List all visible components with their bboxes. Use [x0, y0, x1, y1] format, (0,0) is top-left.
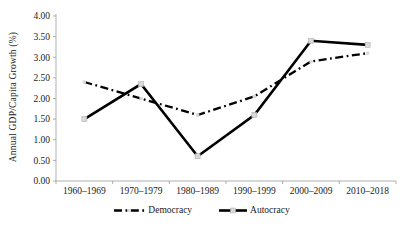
plot-area: 0.000.501.001.502.002.503.003.504.001960… [0, 0, 403, 236]
autocracy-marker [252, 113, 257, 118]
democracy-marker [366, 52, 369, 55]
x-tick-label: 2010–2018 [346, 186, 389, 196]
autocracy-marker [309, 38, 314, 43]
democracy-marker [83, 80, 86, 83]
x-tick-label: 1970–1979 [120, 186, 163, 196]
gdp-growth-line-chart: 0.000.501.001.502.002.503.003.504.001960… [0, 0, 403, 236]
x-tick-label: 2000–2009 [290, 186, 333, 196]
legend-label-autocracy: Autocracy [250, 205, 290, 215]
y-tick-label: 1.00 [33, 135, 50, 145]
legend-item-democracy: Democracy [113, 205, 192, 215]
autocracy-solid-line-icon [218, 206, 248, 215]
democracy-marker [309, 60, 312, 63]
democracy-dashed-line-icon [113, 206, 146, 215]
democracy-line [84, 53, 367, 115]
legend-item-autocracy: Autocracy [218, 205, 290, 215]
y-tick-label: 4.00 [33, 11, 50, 21]
y-tick-label: 0.00 [33, 176, 50, 186]
democracy-marker [253, 95, 256, 98]
legend-label-democracy: Democracy [148, 205, 192, 215]
x-tick-label: 1990–1999 [233, 186, 276, 196]
x-tick-label: 1980–1989 [176, 186, 219, 196]
legend: Democracy Autocracy [0, 205, 403, 215]
x-tick-label: 1960–1969 [63, 186, 106, 196]
autocracy-marker [82, 117, 87, 122]
y-tick-label: 2.50 [33, 73, 50, 83]
democracy-marker [139, 97, 142, 100]
autocracy-marker [195, 154, 200, 159]
y-tick-label: 2.00 [33, 94, 50, 104]
y-tick-label: 1.50 [33, 114, 50, 124]
y-tick-label: 3.00 [33, 53, 50, 63]
autocracy-line [84, 41, 367, 157]
autocracy-marker [365, 42, 370, 47]
autocracy-marker [139, 82, 144, 87]
y-tick-label: 0.50 [33, 156, 50, 166]
y-tick-label: 3.50 [33, 32, 50, 42]
y-axis-title: Annual GDP/Capita Growth (%) [8, 32, 18, 162]
democracy-marker [196, 113, 199, 116]
